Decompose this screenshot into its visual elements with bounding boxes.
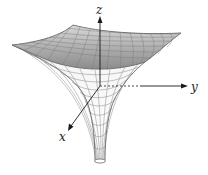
x-axis-arrow-icon xyxy=(68,124,74,132)
z-axis-arrow-icon xyxy=(98,16,103,23)
y-axis-label: y xyxy=(190,80,198,94)
x-axis-label: x xyxy=(59,130,66,144)
surface-top xyxy=(12,25,181,70)
surface-plot: z y x xyxy=(0,0,208,175)
z-axis-label: z xyxy=(95,3,103,17)
surface-plot-figure: z y x xyxy=(0,0,208,175)
funnel-bottom-ellipse xyxy=(95,159,106,163)
y-axis-arrow-icon xyxy=(181,84,188,89)
